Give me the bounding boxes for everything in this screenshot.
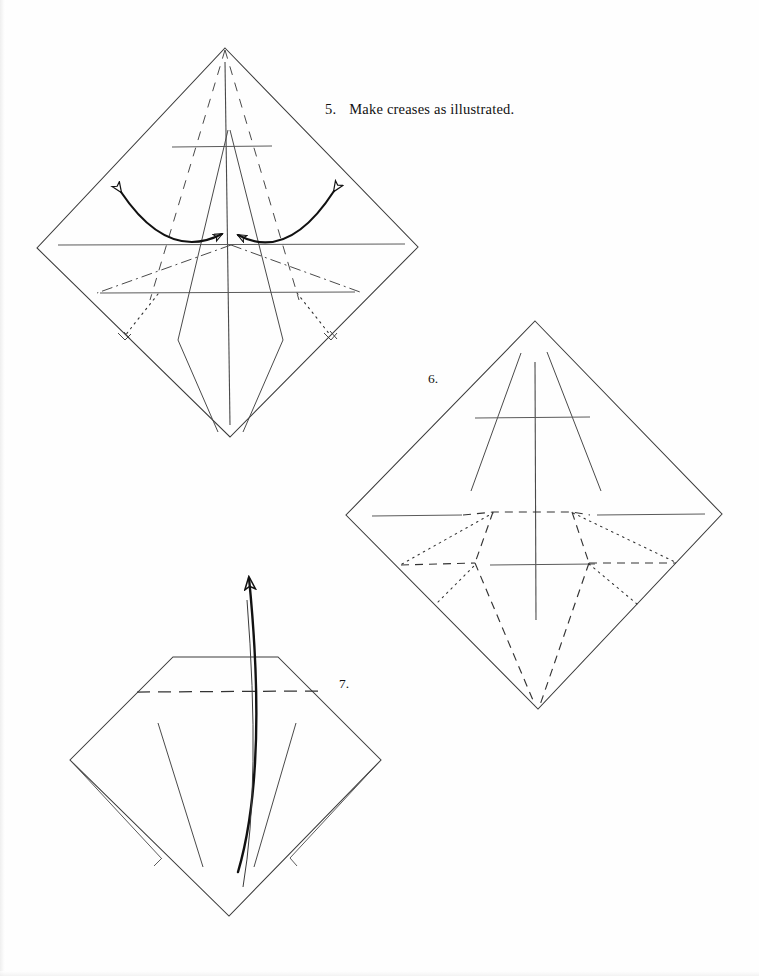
figure5-right-long-crease bbox=[230, 130, 283, 432]
step-7-number: 7. bbox=[339, 676, 349, 691]
figure5-dashdot-right bbox=[231, 245, 360, 292]
figure6-dotted-left-upper bbox=[402, 513, 493, 564]
figure-step-6 bbox=[346, 321, 722, 709]
figure6-dashed-right-diag-upper bbox=[572, 512, 589, 563]
figure6-dotted-left-lower bbox=[438, 564, 476, 602]
figure7-dashed-fold bbox=[137, 691, 319, 692]
step-5-text: Make creases as illustrated. bbox=[349, 101, 514, 117]
figure6-mid-horizontal-left bbox=[372, 515, 462, 516]
figure5-vertical-crease bbox=[225, 62, 230, 425]
figure7-right-flap-inner bbox=[290, 761, 380, 858]
origami-diagram-artwork bbox=[0, 0, 759, 976]
figure7-left-flap-cap bbox=[154, 859, 161, 866]
figure6-dashed-left-diag-upper bbox=[475, 512, 493, 563]
page-canvas: 5.Make creases as illustrated. 6. 7. bbox=[0, 0, 759, 976]
figure7-right-flap-cap bbox=[290, 858, 297, 866]
figure7-lift-arrow bbox=[238, 578, 256, 872]
figure5-upper-crossbar bbox=[172, 146, 272, 147]
figure7-left-flap-inner bbox=[71, 761, 162, 859]
step-6-caption: 6. bbox=[428, 371, 438, 387]
figure6-right-converging-crease bbox=[547, 352, 601, 491]
figure6-left-converging-crease bbox=[471, 353, 521, 491]
figure6-dashed-left-to-bottom bbox=[475, 563, 535, 705]
figure7-right-crease bbox=[254, 723, 296, 867]
figure-step-7 bbox=[70, 578, 381, 916]
figure6-mid-horizontal-right bbox=[597, 514, 705, 515]
figure6-vertical-crease bbox=[535, 362, 536, 620]
figure5-dotted-left bbox=[124, 294, 158, 337]
figure6-lower-horizontal bbox=[490, 564, 595, 565]
figure5-dashed-right bbox=[225, 50, 299, 300]
figure7-left-crease bbox=[158, 723, 203, 867]
figure6-dashed-left-horizontal bbox=[401, 563, 475, 565]
figure5-lower-horizontal bbox=[100, 292, 355, 293]
figure5-left-long-crease bbox=[178, 130, 228, 432]
figure6-dashed-right-to-bottom bbox=[540, 563, 589, 705]
figure6-dotted-right-lower bbox=[589, 564, 637, 604]
figure6-dotted-right-upper bbox=[573, 513, 675, 562]
step-5-caption: 5.Make creases as illustrated. bbox=[325, 101, 514, 118]
figure5-dotted-right bbox=[297, 293, 331, 336]
figure7-outline bbox=[70, 657, 381, 916]
figure6-dashed-top-band bbox=[463, 512, 590, 515]
step-5-number: 5. bbox=[325, 101, 336, 117]
figure6-outline bbox=[346, 321, 722, 709]
step-6-number: 6. bbox=[428, 371, 438, 386]
step-7-caption: 7. bbox=[339, 676, 349, 692]
